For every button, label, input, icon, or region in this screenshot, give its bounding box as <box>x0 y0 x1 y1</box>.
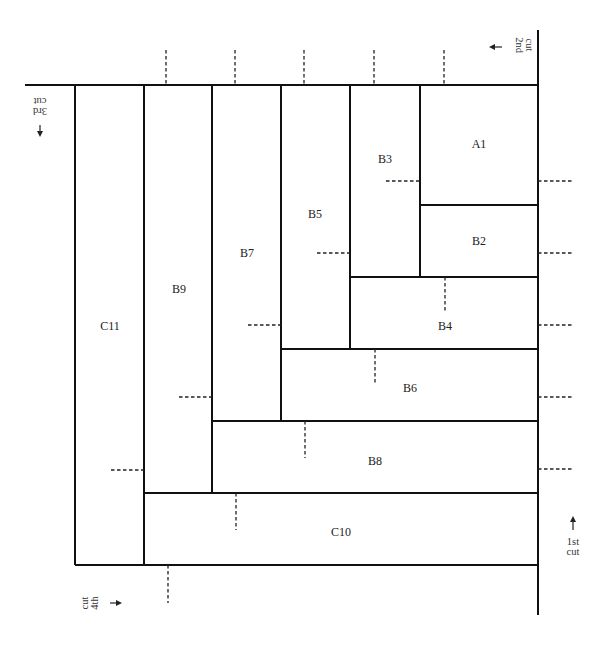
fourth-cut-label: 4th <box>89 596 100 610</box>
arrow-down-head <box>37 131 43 137</box>
piece-label-b6: B6 <box>403 381 417 395</box>
piece-label-b3: B3 <box>378 152 392 166</box>
piece-label-c11: C11 <box>100 319 120 333</box>
arrow-right-head <box>116 600 122 606</box>
fourth-cut-label-2: cut <box>79 597 90 610</box>
piece-label-b2: B2 <box>472 234 486 248</box>
piece-label-b8: B8 <box>368 454 382 468</box>
arrow-up-head <box>570 516 576 522</box>
cutting-diagram: A1 B2 B3 B4 B5 B6 B7 B8 B9 C10 C11 1st c… <box>0 0 609 645</box>
first-cut-label-2: cut <box>567 546 580 557</box>
piece-label-c10: C10 <box>331 525 351 539</box>
third-cut-label-2: cut <box>34 96 47 107</box>
second-cut-annotation: 2nd cut <box>489 37 535 54</box>
second-cut-label-2: cut <box>524 39 535 52</box>
piece-label-b4: B4 <box>438 319 452 333</box>
first-cut-annotation: 1st cut <box>567 516 580 557</box>
third-cut-annotation: 3rd cut <box>32 96 47 137</box>
piece-label-b7: B7 <box>240 246 254 260</box>
piece-label-b5: B5 <box>308 207 322 221</box>
piece-label-b9: B9 <box>172 282 186 296</box>
arrow-left-head <box>489 44 495 50</box>
second-cut-label: 2nd <box>514 37 525 54</box>
piece-label-a1: A1 <box>472 137 487 151</box>
fourth-cut-annotation: 4th cut <box>79 596 122 610</box>
